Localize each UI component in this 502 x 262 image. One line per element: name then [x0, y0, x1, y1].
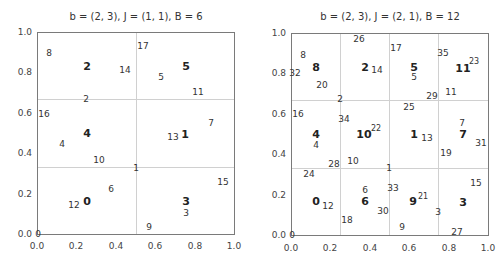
point-label: 0	[35, 230, 41, 239]
point-label: 1	[386, 164, 392, 173]
bin-label: 3	[459, 197, 467, 208]
point-label: 14	[119, 66, 130, 75]
point-label: 35	[437, 49, 448, 58]
point-label: 8	[300, 51, 306, 60]
point-label: 15	[217, 178, 228, 187]
point-label: 34	[338, 115, 349, 124]
right-vgrid-1	[340, 34, 341, 235]
point-label: 10	[347, 157, 358, 166]
bin-label: 10	[356, 129, 371, 140]
x-tick: 0.4	[363, 243, 377, 253]
point-label: 12	[322, 202, 333, 211]
x-tick: 0.6	[402, 243, 416, 253]
y-tick: 0.0	[18, 229, 32, 239]
y-tick: 1.0	[18, 27, 32, 37]
right-vgrid-3	[438, 34, 439, 235]
x-tick: 0.4	[109, 241, 123, 251]
point-label: 17	[137, 42, 148, 51]
point-label: 13	[421, 134, 432, 143]
point-label: 5	[158, 73, 164, 82]
figure: b = (2, 3), J = (1, 1), B = 6 0.0 0.2 0.…	[0, 0, 502, 262]
point-label: 10	[93, 156, 104, 165]
left-hgrid-upper	[38, 99, 234, 100]
y-tick: 0.4	[18, 148, 32, 158]
x-tick: 0.0	[284, 243, 298, 253]
x-tick: 1.0	[481, 243, 495, 253]
bin-label: 8	[312, 62, 320, 73]
point-label: 0	[289, 231, 295, 240]
bin-label: 2	[361, 62, 369, 73]
point-label: 6	[108, 185, 114, 194]
x-tick: 1.0	[227, 241, 241, 251]
point-label: 15	[470, 179, 481, 188]
point-label: 18	[341, 216, 352, 225]
point-label: 27	[451, 228, 462, 237]
x-tick: 0.2	[69, 241, 83, 251]
y-tick: 0.0	[272, 230, 286, 240]
point-label: 31	[475, 139, 486, 148]
right-vgrid-2	[389, 34, 390, 235]
bin-label: 5	[182, 61, 190, 72]
point-label: 26	[353, 35, 364, 44]
x-tick: 0.0	[30, 241, 44, 251]
y-tick: 0.6	[18, 108, 32, 118]
left-plot-title: b = (2, 3), J = (1, 1), B = 6	[69, 11, 202, 22]
x-tick: 0.8	[188, 241, 202, 251]
point-label: 6	[362, 186, 368, 195]
bin-label: 6	[361, 196, 369, 207]
point-label: 3	[435, 208, 441, 217]
bin-label: 4	[312, 129, 320, 140]
bin-label: 0	[312, 196, 320, 207]
point-label: 8	[46, 49, 52, 58]
x-tick: 0.8	[442, 243, 456, 253]
point-label: 28	[328, 160, 339, 169]
y-tick: 0.8	[18, 67, 32, 77]
point-label: 11	[192, 88, 203, 97]
bin-label: 9	[409, 196, 417, 207]
point-label: 3	[183, 209, 189, 218]
point-label: 22	[371, 125, 381, 133]
point-label: 4	[313, 141, 319, 150]
bin-label: 2	[83, 61, 91, 72]
point-label: 7	[208, 119, 214, 128]
y-tick: 0.8	[272, 68, 286, 78]
point-label: 20	[316, 81, 327, 90]
point-label: 9	[399, 223, 405, 232]
point-label: 4	[59, 140, 65, 149]
point-label: 1	[133, 164, 139, 173]
x-tick: 0.6	[148, 241, 162, 251]
right-plot-title: b = (2, 3), J = (2, 1), B = 12	[320, 11, 460, 22]
bin-label: 4	[83, 128, 91, 139]
point-label: 30	[377, 207, 388, 216]
point-label: 25	[403, 103, 414, 112]
bin-label: 0	[83, 196, 91, 207]
point-label: 17	[390, 44, 401, 53]
point-label: 16	[292, 110, 303, 119]
point-label: 21	[418, 193, 428, 201]
point-label: 24	[303, 170, 314, 179]
point-label: 2	[337, 95, 343, 104]
point-label: 33	[387, 184, 398, 193]
x-tick: 0.2	[323, 243, 337, 253]
point-label: 13	[167, 133, 178, 142]
point-label: 29	[426, 92, 437, 101]
bin-label: 1	[181, 129, 189, 140]
bin-label: 7	[459, 129, 467, 140]
point-label: 23	[469, 58, 479, 66]
point-label: 14	[371, 66, 382, 75]
left-vgrid	[136, 33, 137, 234]
point-label: 32	[289, 69, 300, 78]
y-tick: 0.2	[18, 189, 32, 199]
point-label: 2	[83, 95, 89, 104]
right-hgrid-upper	[292, 100, 488, 101]
point-label: 16	[38, 110, 49, 119]
y-tick: 0.2	[272, 190, 286, 200]
point-label: 9	[146, 223, 152, 232]
point-label: 19	[440, 149, 451, 158]
bin-label: 3	[182, 196, 190, 207]
point-label: 5	[411, 73, 417, 82]
point-label: 7	[459, 119, 465, 128]
y-tick: 0.6	[272, 109, 286, 119]
y-tick: 1.0	[272, 28, 286, 38]
point-label: 12	[68, 201, 79, 210]
